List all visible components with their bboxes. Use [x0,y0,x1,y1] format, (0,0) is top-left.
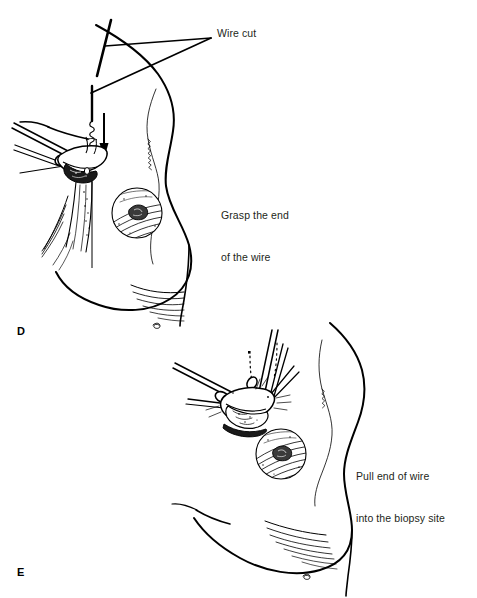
medical-illustration-figure: Wire cut Grasp the end of the wire Pull … [0,0,477,598]
nipple-d [129,205,148,220]
annotation-grasp-the-end-of-the-wire: Grasp the end of the wire [221,180,289,292]
annotation-pull-line-1: Pull end of wire [356,469,445,483]
annotation-pull-line-2: into the biopsy site [356,511,445,525]
annotation-pull-end-of-wire: Pull end of wire into the biopsy site [356,441,445,553]
panel-letter-d: D [17,325,25,337]
annotation-grasp-line-2: of the wire [221,250,289,264]
panel-letter-e: E [17,566,25,578]
annotation-wire-cut: Wire cut [217,26,256,40]
annotation-grasp-line-1: Grasp the end [221,208,289,222]
nipple-e [273,446,292,461]
